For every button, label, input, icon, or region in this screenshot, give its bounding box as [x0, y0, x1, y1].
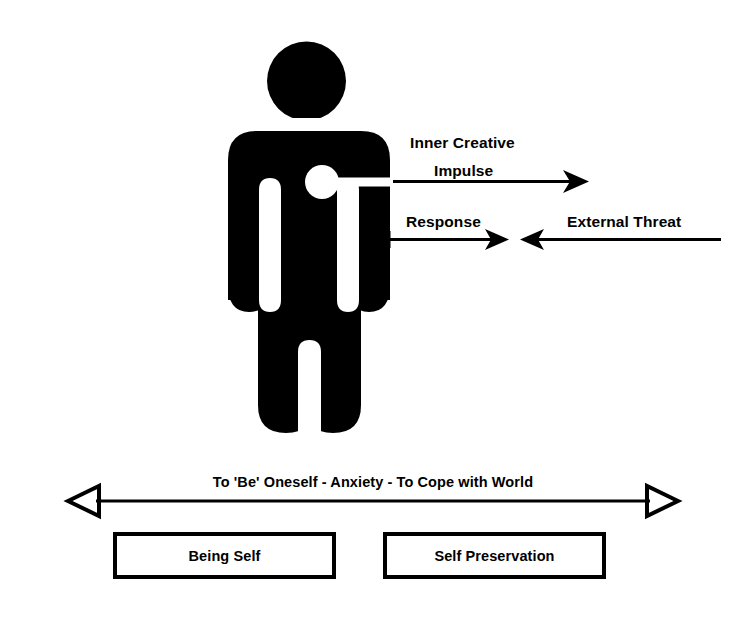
box-self-preservation[interactable]: Self Preservation — [385, 534, 604, 577]
figure-neck-gap — [228, 118, 390, 131]
threat-label: External Threat — [567, 213, 681, 230]
impulse-channel — [322, 178, 397, 187]
box-self-preservation-label: Self Preservation — [434, 548, 554, 564]
spectrum-left-arrowhead — [68, 486, 99, 516]
response-label: Response — [406, 213, 481, 230]
figure-right-arm-gap — [337, 178, 359, 312]
figure-head — [267, 42, 346, 121]
spectrum-right-arrowhead — [647, 486, 678, 516]
impulse-arrow-group: Inner Creative Impulse — [393, 134, 589, 193]
spectrum-caption: To 'Be' Oneself - Anxiety - To Cope with… — [213, 474, 533, 490]
figure-left-arm-gap — [259, 178, 281, 312]
diagram-svg: Inner Creative Impulse Response External… — [0, 0, 746, 619]
box-being-self[interactable]: Being Self — [115, 534, 334, 577]
threat-arrow-group: External Threat — [520, 213, 721, 250]
impulse-label-line1: Inner Creative — [410, 134, 515, 151]
human-pictogram — [228, 42, 397, 434]
figure-leg-gap — [298, 340, 321, 433]
pole-boxes: Being Self Self Preservation — [115, 534, 604, 577]
impulse-label-line2: Impulse — [434, 162, 494, 179]
box-being-self-label: Being Self — [189, 548, 261, 564]
spectrum-axis-group: To 'Be' Oneself - Anxiety - To Cope with… — [68, 474, 678, 516]
response-arrow-group: Response — [389, 213, 509, 250]
diagram-canvas: Inner Creative Impulse Response External… — [0, 0, 746, 619]
